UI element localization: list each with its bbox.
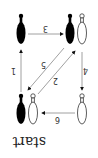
svg-text:2: 2 — [53, 76, 58, 85]
black-pin-icon — [66, 14, 75, 44]
state-diagram: 1 3 4 6 5 2 start — [0, 0, 98, 158]
start-label: start — [12, 134, 46, 150]
state-top-right — [66, 14, 87, 44]
edge-6: 6 — [42, 113, 75, 124]
svg-text:5: 5 — [41, 60, 46, 69]
svg-text:6: 6 — [55, 115, 60, 124]
edge-2: 2 — [38, 51, 75, 94]
state-top-left — [17, 14, 26, 44]
svg-text:1: 1 — [11, 66, 16, 75]
edge-3: 3 — [28, 24, 63, 34]
white-pin-icon — [29, 94, 38, 124]
black-pin-icon — [17, 94, 26, 124]
white-pin-icon — [78, 94, 87, 124]
white-pin-icon — [78, 14, 87, 44]
state-bottom-right — [78, 94, 87, 124]
state-bottom-left — [17, 94, 38, 124]
svg-text:3: 3 — [43, 24, 48, 33]
edge-1: 1 — [11, 50, 21, 92]
edge-4: 4 — [82, 52, 88, 90]
svg-text:4: 4 — [83, 66, 88, 75]
black-pin-icon — [17, 14, 26, 44]
